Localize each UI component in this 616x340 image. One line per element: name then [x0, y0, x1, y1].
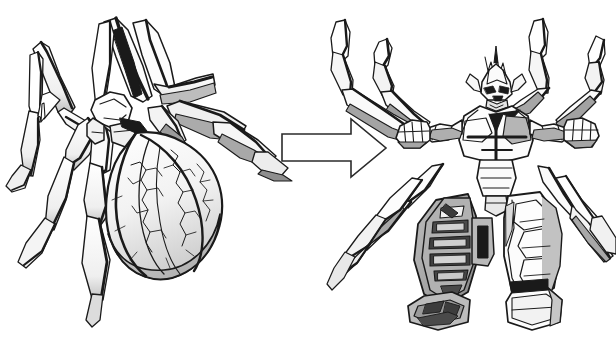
spider-abdomen [106, 132, 222, 279]
spider-figure [6, 18, 292, 327]
robot-leg-left-shield [408, 194, 494, 330]
concept-art-canvas: Spider Mech Transformation Concept Sheet… [0, 0, 616, 340]
robot-spiderleg-lower-right-outer [556, 176, 616, 254]
spider-mode-illustration [0, 0, 616, 340]
robot-spiderleg-lower-left-outer [327, 178, 422, 290]
robot-figure [327, 19, 616, 330]
robot-spiderleg-upper-right-inner [505, 19, 549, 120]
robot-spiderleg-upper-right-outer [556, 36, 605, 129]
transformation-arrow [282, 119, 386, 177]
robot-leg-right-plated [504, 192, 562, 330]
robot-head [466, 46, 526, 111]
